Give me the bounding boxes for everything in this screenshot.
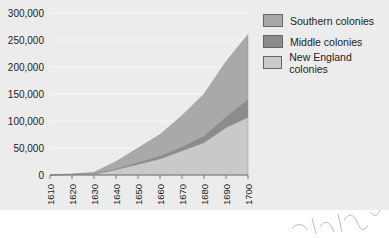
x-tick-label: 1620: [67, 184, 78, 205]
y-tick-label: 200,000: [8, 62, 45, 73]
x-tick-label: 1640: [111, 184, 122, 205]
x-tick-label: 1690: [221, 184, 232, 205]
x-tick-label: 1630: [89, 184, 100, 205]
legend-item-southern: Southern colonies: [263, 10, 389, 31]
legend-label: Southern colonies: [290, 15, 374, 27]
legend-item-middle: Middle colonies: [263, 31, 389, 52]
x-tick-label: 1670: [177, 184, 188, 205]
legend-item-new-england: New England colonies: [263, 52, 389, 73]
legend-label: Middle colonies: [290, 36, 362, 48]
x-tick-label: 1610: [45, 184, 56, 205]
y-tick-label: 250,000: [8, 35, 45, 46]
y-tick-label: 50,000: [13, 143, 44, 154]
y-tick-label: 100,000: [8, 116, 45, 127]
x-tick-label: 1700: [243, 184, 254, 205]
legend-swatch-middle: [263, 35, 283, 48]
y-tick-label: 0: [38, 170, 44, 181]
legend-swatch-new-england: [263, 56, 282, 69]
legend-swatch-southern: [263, 14, 283, 27]
handwriting-scribble: [290, 206, 389, 238]
legend: Southern colonies Middle colonies New En…: [263, 10, 389, 73]
y-tick-label: 300,000: [8, 8, 45, 19]
x-tick-label: 1660: [155, 184, 166, 205]
x-tick-label: 1650: [133, 184, 144, 205]
x-tick-label: 1680: [199, 184, 210, 205]
y-tick-label: 150,000: [8, 89, 45, 100]
legend-label: New England colonies: [289, 51, 389, 75]
